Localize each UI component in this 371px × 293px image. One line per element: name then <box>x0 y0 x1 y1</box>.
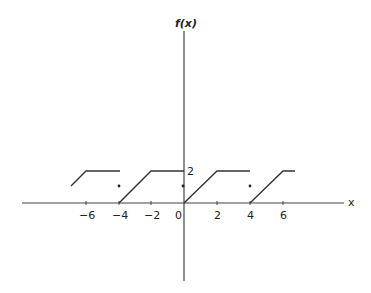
point <box>182 185 185 188</box>
y-axis-label: f(x) <box>175 17 197 30</box>
x-tick-label: 6 <box>280 209 287 222</box>
y-tick-label: 2 <box>187 165 194 178</box>
point <box>118 185 121 188</box>
x-tick-label: −2 <box>144 209 160 222</box>
chart: f(x) x −6 −4 −2 0 2 4 6 2 <box>0 0 371 293</box>
segment <box>71 171 120 186</box>
x-tick-label: 2 <box>214 209 221 222</box>
point <box>249 185 252 188</box>
x-tick-label: −4 <box>112 209 128 222</box>
segment <box>250 171 295 203</box>
x-tick-label: 4 <box>247 209 254 222</box>
segment <box>119 171 184 203</box>
x-tick-label: 0 <box>175 209 182 222</box>
x-tick-label: −6 <box>79 209 95 222</box>
x-axis-label: x <box>348 196 355 209</box>
